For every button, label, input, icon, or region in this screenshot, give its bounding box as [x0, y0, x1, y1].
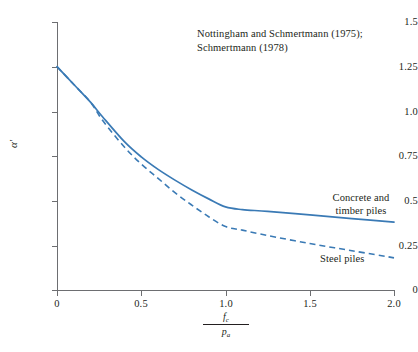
chart-curves — [0, 0, 418, 352]
series-line-steel-piles — [57, 67, 394, 258]
chart-figure: 1.5 1.25 1.0 0.75 0.5 0.25 0 0 0.5 1.0 1… — [0, 0, 418, 352]
series-line-concrete-and-timber-piles — [57, 67, 394, 222]
